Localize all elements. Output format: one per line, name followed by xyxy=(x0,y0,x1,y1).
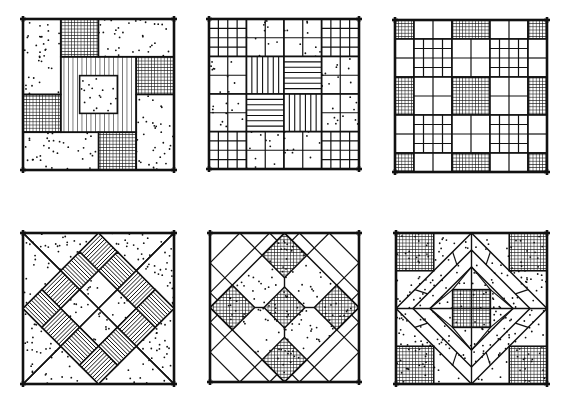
quilt-block-checkerboard-grid xyxy=(395,20,547,172)
quilt-block-pinwheel-log-cabin xyxy=(23,19,174,170)
quilt-block-diamonds-and-octagons xyxy=(210,233,359,382)
quilt-block-nine-patch-stripes xyxy=(209,19,359,169)
quilt-block-square-in-diamond-star xyxy=(396,233,547,384)
quilt-block-diamond-in-square-stripes xyxy=(23,233,174,384)
